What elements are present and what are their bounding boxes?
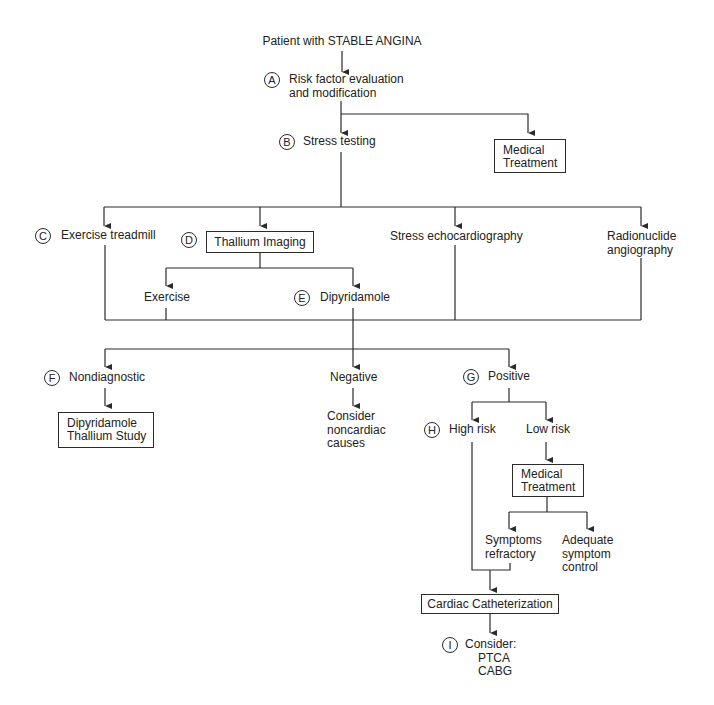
positive-label: Positive (488, 370, 530, 384)
stress-testing-label: Stress testing (303, 135, 376, 149)
exercise-treadmill-label: Exercise treadmill (61, 229, 156, 243)
option-cabg: CABG (478, 665, 512, 679)
high-risk-label: High risk (449, 423, 496, 437)
adequate-symptom-control-label: Adequate symptom control (562, 534, 613, 575)
low-risk-label: Low risk (526, 423, 570, 437)
symptoms-refractory-label: Symptoms refractory (485, 534, 542, 561)
step-marker-f: F (44, 370, 60, 386)
medical-treatment-box-2: Medical Treatment (512, 464, 584, 497)
stable-angina-flowchart: Patient with STABLE ANGINA A Risk factor… (0, 0, 714, 705)
connectors (0, 0, 714, 705)
medical-treatment-box: Medical Treatment (494, 139, 566, 173)
exercise-label: Exercise (144, 291, 190, 305)
step-marker-d: D (181, 232, 197, 248)
radionuclide-angiography-label: Radionuclide angiography (607, 230, 676, 257)
step-marker-c: C (35, 228, 51, 244)
step-marker-h: H (424, 422, 440, 438)
start-title: Patient with STABLE ANGINA (262, 35, 421, 49)
step-marker-i: I (442, 637, 458, 653)
step-marker-a: A (264, 72, 280, 88)
risk-factor-label: Risk factor evaluation and modification (289, 73, 404, 100)
thallium-imaging-box: Thallium Imaging (206, 231, 314, 253)
step-marker-b: B (279, 134, 295, 150)
nondiagnostic-label: Nondiagnostic (69, 371, 145, 385)
step-marker-e: E (294, 290, 310, 306)
cardiac-catheterization-box: Cardiac Catheterization (421, 594, 559, 614)
negative-label: Negative (330, 371, 377, 385)
arrow-a-to-medical-treatment (341, 114, 528, 133)
stress-echocardiography-label: Stress echocardiography (390, 230, 523, 244)
consider-label: Consider: (465, 638, 516, 652)
dipyridamole-thallium-study-box: Dipyridamole Thallium Study (58, 412, 154, 448)
step-marker-g: G (463, 369, 479, 385)
consider-noncardiac-label: Consider noncardiac causes (327, 410, 386, 451)
dipyridamole-label: Dipyridamole (320, 291, 390, 305)
